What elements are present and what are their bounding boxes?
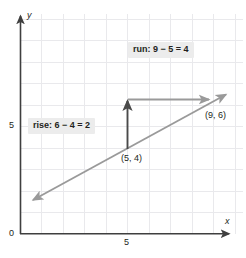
y-axis-label: y — [27, 11, 32, 20]
slope-rise-run-figure: y x 0 5 5 run: 9 − 5 = 4 rise: 6 − 4 = 2… — [0, 0, 246, 258]
run-callout: run: 9 − 5 = 4 — [128, 42, 194, 58]
x-tick-label-5: 5 — [124, 238, 129, 247]
x-axis-label: x — [225, 217, 230, 226]
slope-line — [33, 95, 226, 201]
origin-tick-label: 0 — [9, 229, 14, 238]
point-label-start: (5, 4) — [121, 154, 142, 163]
y-tick-label-5: 5 — [9, 121, 14, 130]
point-label-end: (9, 6) — [205, 111, 226, 120]
rise-callout: rise: 6 − 4 = 2 — [28, 118, 95, 134]
